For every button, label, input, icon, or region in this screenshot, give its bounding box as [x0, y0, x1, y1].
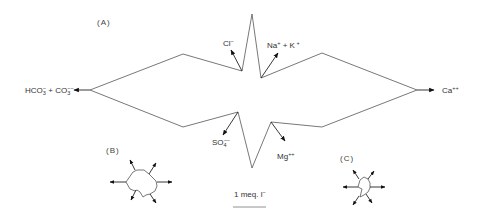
arrow-c-upper-left [353, 170, 359, 179]
label-cl: Cl− [223, 38, 234, 48]
arrow-mg [271, 122, 285, 141]
panel-label-b: (B) [106, 146, 120, 155]
stiff-diagram-canvas: (A) HCO3− + CO3−− Cl− Na+ + K + Ca++ SO4… [0, 0, 482, 221]
stiff-polygon-c [358, 177, 370, 197]
label-hco3-co3: HCO3− + CO3−− [25, 85, 74, 96]
scale-bar-label: 1 meq. l− [234, 189, 266, 199]
arrow-c-lower-left [353, 196, 359, 205]
panel-label-a: (A) [97, 18, 111, 27]
label-na-k: Na+ + K + [267, 40, 300, 50]
arrow-b-upper-left [130, 160, 135, 170]
label-ca: Ca++ [442, 85, 459, 95]
stiff-polygon-b [126, 170, 157, 197]
arrow-b-lower-right [150, 194, 156, 203]
label-mg: Mg++ [277, 151, 295, 161]
label-so4: SO4−− [212, 137, 230, 148]
arrow-b-upper-right [149, 163, 156, 174]
arrow-cl [231, 50, 242, 71]
panel-label-c: (C) [340, 154, 354, 163]
stiff-polygon-a [90, 14, 417, 168]
arrow-c-lower-right [366, 194, 372, 203]
arrow-b-lower-left [131, 190, 136, 200]
arrow-c-upper-right [368, 171, 374, 179]
